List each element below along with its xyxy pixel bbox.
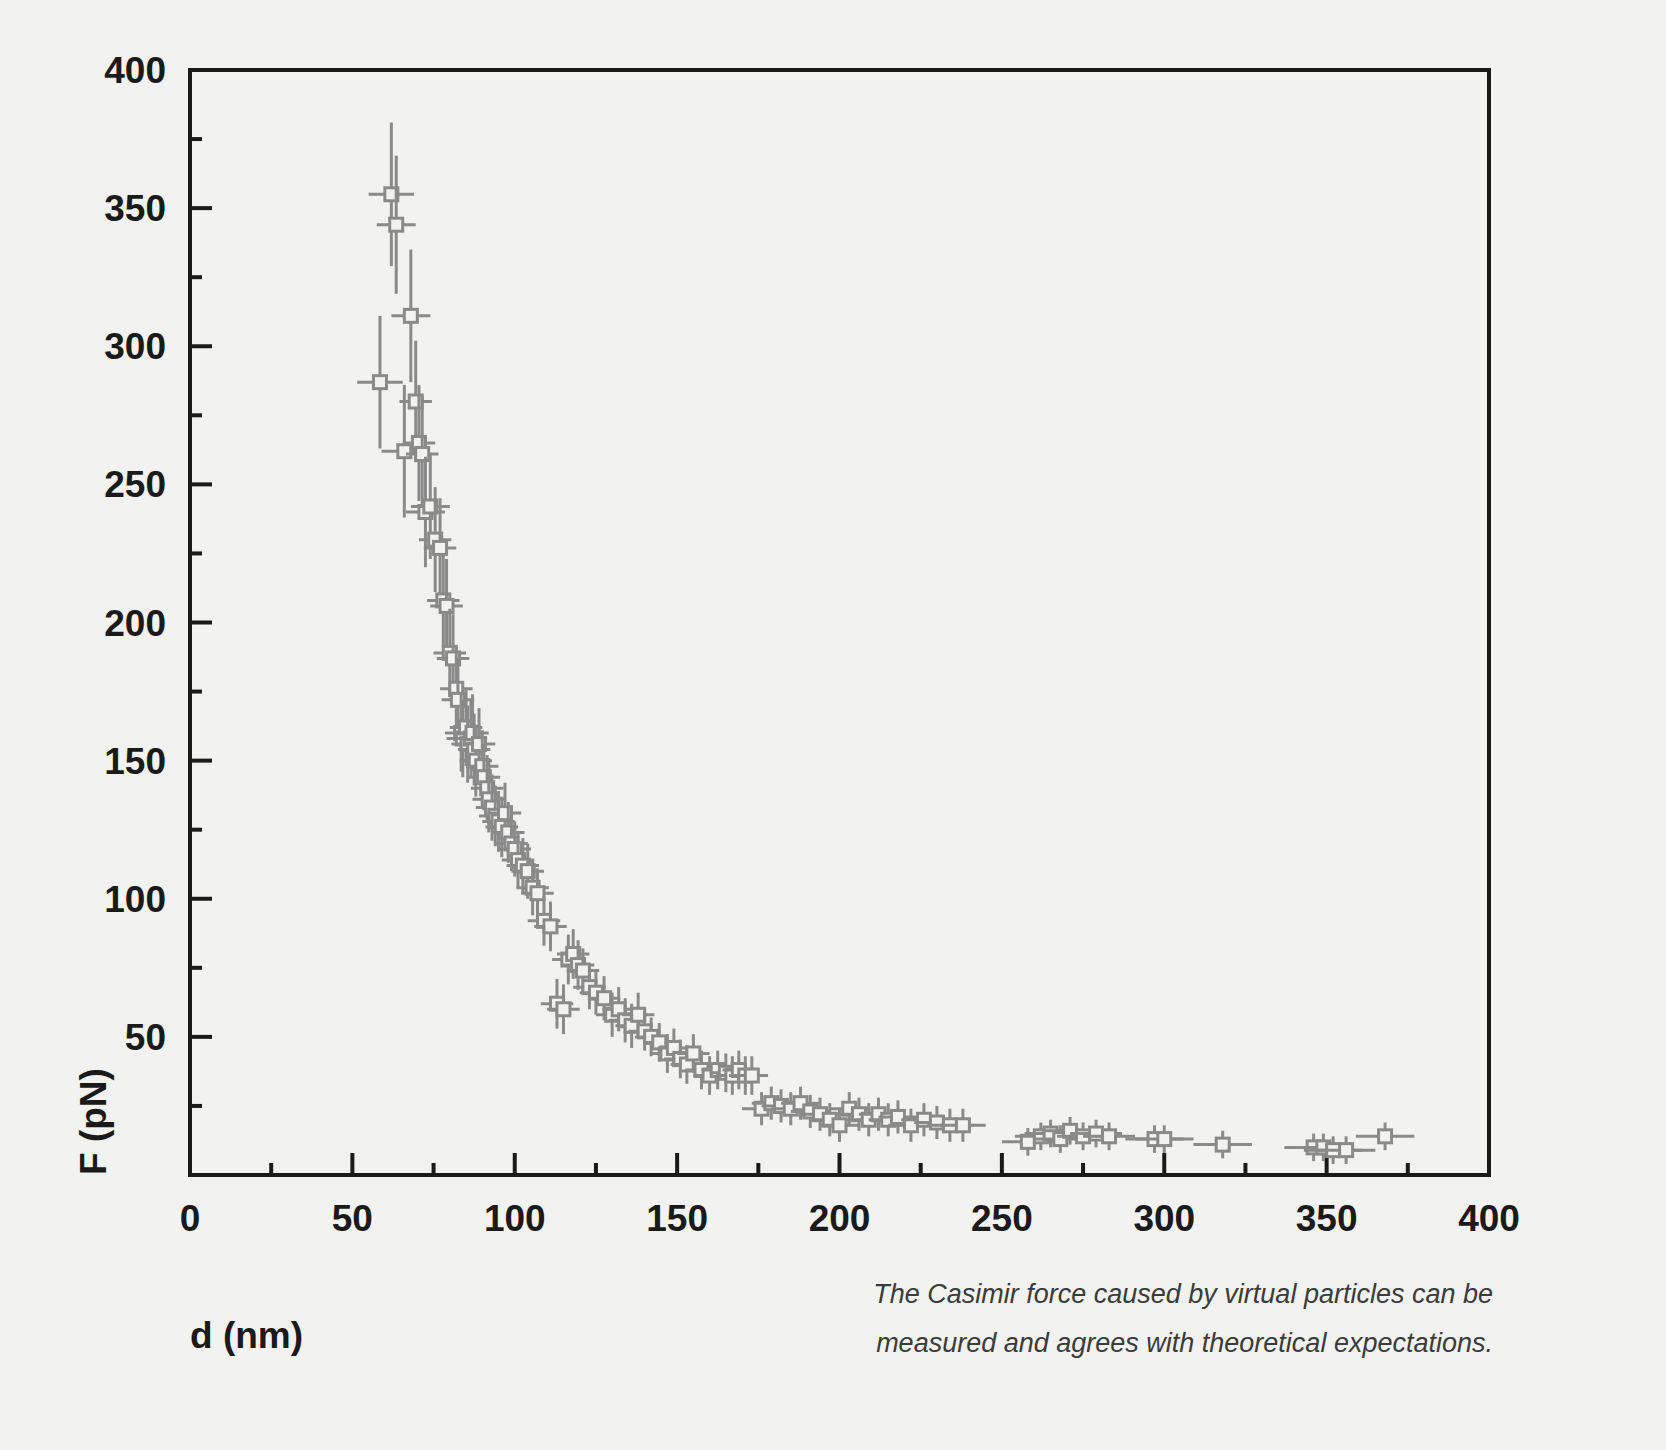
x-axis-title: d (nm) — [190, 1315, 303, 1356]
y-tick-label-150: 150 — [104, 741, 166, 782]
x-tick-label-350: 350 — [1296, 1198, 1358, 1239]
caption-line-2: measured and agrees with theoretical exp… — [876, 1328, 1493, 1358]
y-tick-label-100: 100 — [104, 879, 166, 920]
x-tick-label-100: 100 — [484, 1198, 546, 1239]
caption-line-1: The Casimir force caused by virtual part… — [873, 1279, 1493, 1309]
y-tick-label-350: 350 — [104, 188, 166, 229]
x-tick-label-0: 0 — [180, 1198, 201, 1239]
x-tick-label-200: 200 — [809, 1198, 871, 1239]
x-tick-label-400: 400 — [1458, 1198, 1520, 1239]
x-tick-label-50: 50 — [332, 1198, 373, 1239]
y-tick-label-400: 400 — [104, 50, 166, 91]
y-tick-label-250: 250 — [104, 464, 166, 505]
y-tick-label-50: 50 — [125, 1017, 166, 1058]
x-tick-label-250: 250 — [971, 1198, 1033, 1239]
casimir-force-plot: 050100150200250300350400 501001502002503… — [0, 0, 1666, 1450]
y-tick-label-300: 300 — [104, 326, 166, 367]
y-axis-title: F (pN) — [73, 1068, 114, 1175]
x-tick-label-300: 300 — [1133, 1198, 1195, 1239]
casimir-force-figure: 050100150200250300350400 501001502002503… — [0, 0, 1666, 1450]
y-tick-label-200: 200 — [104, 603, 166, 644]
x-tick-label-150: 150 — [646, 1198, 708, 1239]
